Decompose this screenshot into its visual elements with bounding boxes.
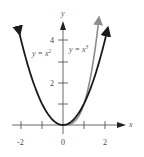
chart-figure: x -2 0 2 y 2 4 y = x2 y = x3 [0,0,144,157]
x-axis: x -2 0 2 [12,120,133,147]
y-axis-arrow-icon [60,21,66,30]
y-tick-label: 4 [50,36,54,45]
x-axis-label: x [128,120,133,129]
label-x-squared: y = x2 [31,48,52,58]
y-tick-label: 2 [50,79,54,88]
y-axis: y 2 4 [50,9,68,134]
x-tick-label: 0 [61,138,65,147]
x-tick-label: 2 [103,138,107,147]
x-axis-arrow-icon [117,122,126,128]
y-axis-label: y [60,9,65,18]
x-tick-label: -2 [17,138,24,147]
label-x-cubed: y = x3 [68,44,89,54]
